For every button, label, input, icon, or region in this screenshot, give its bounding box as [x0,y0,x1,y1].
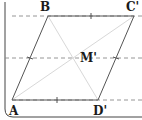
label-D-prime: D' [93,104,107,118]
geometry-diagram: B C' M' A D' [0,0,142,120]
label-A: A [8,104,19,118]
label-C-prime: C' [126,0,139,14]
label-M-prime: M' [80,51,97,65]
label-B: B [40,0,50,14]
